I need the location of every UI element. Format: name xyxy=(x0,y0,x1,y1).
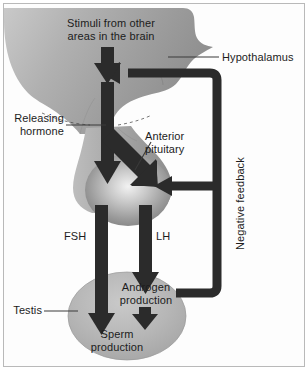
fsh-arrow xyxy=(88,205,115,335)
hypothalamus-label: Hypothalamus xyxy=(222,51,294,64)
testis-label: Testis xyxy=(2,304,42,317)
negative-feedback-label: Negative feedback xyxy=(234,157,247,250)
sperm-production-label: Sperm production xyxy=(76,328,158,353)
anterior-pituitary-label: Anterior pituitary xyxy=(145,130,184,155)
releasing-hormone-label: Releasing hormone xyxy=(2,112,64,137)
androgen-production-label: Androgen production xyxy=(108,281,184,306)
lh-label: LH xyxy=(156,230,170,243)
figure-root: Stimuli from other areas in the brain Hy… xyxy=(0,0,308,370)
stimuli-label: Stimuli from other areas in the brain xyxy=(52,17,170,42)
fsh-label: FSH xyxy=(64,230,86,243)
